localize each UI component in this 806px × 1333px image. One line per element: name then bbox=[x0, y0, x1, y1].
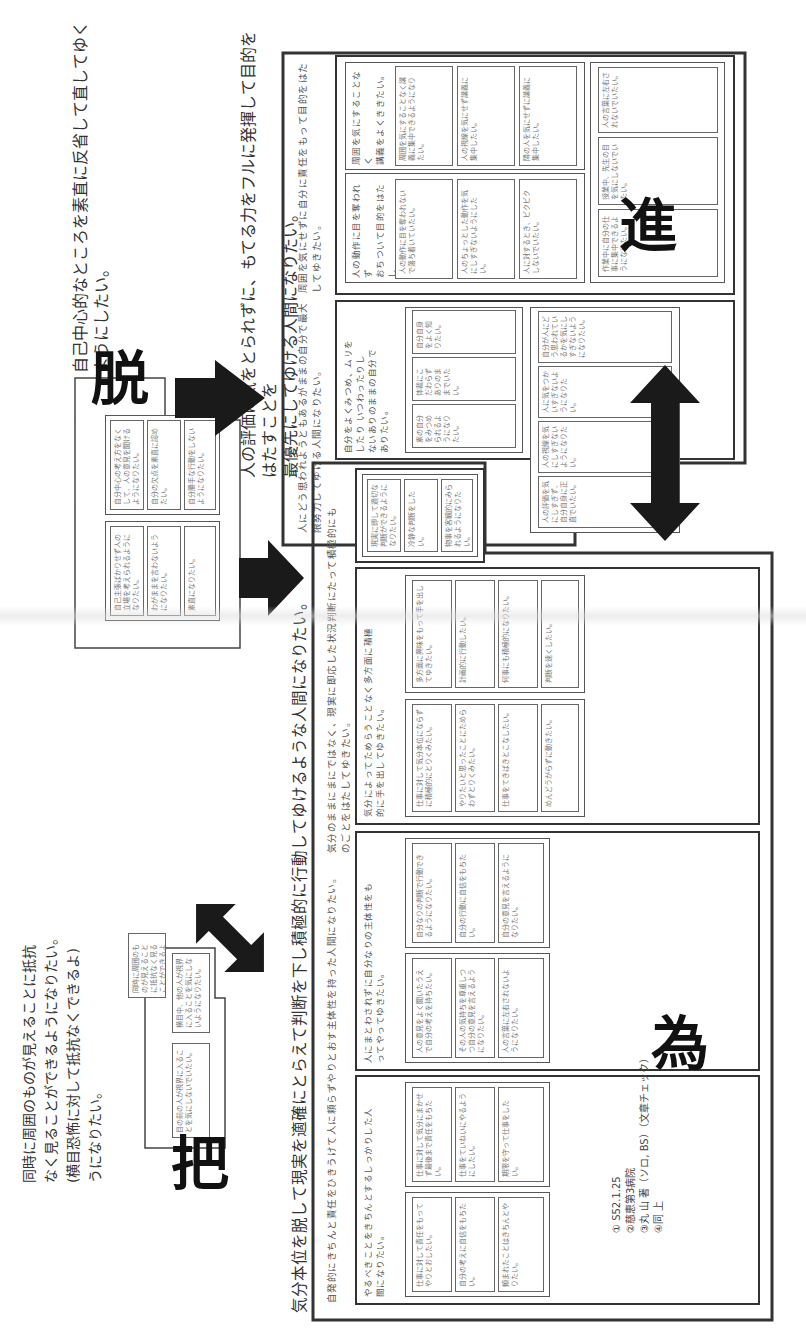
i-card: 自分の考えに自信をもちたい。 bbox=[455, 1197, 495, 1292]
i-card: 自分なりの判断で行動できるようになりたい。 bbox=[412, 843, 452, 943]
i-card: 仕事をてきぱきとこなしたい。 bbox=[498, 704, 538, 812]
datsu-card: 自己主張ばかりせず人の立場を考えられるようになりたい。 bbox=[110, 526, 144, 616]
i-card: やりたいと思ったことにためらわずとりくみたい。 bbox=[455, 704, 495, 812]
shin-sub-right: 周囲を気にせずに自分に責任をもって目的をはた してゆきたい。 bbox=[296, 43, 324, 293]
shin-glyph: 進 bbox=[619, 196, 677, 256]
ha-goal-heading: 同時に周囲のものが見えることに抵抗 なく見ることができるようになりたい。 (横目… bbox=[18, 923, 106, 1183]
document-page: 人の評価に気をとられずに、もてる力をフルに発揮して目的をはたすことを 最優先にし… bbox=[0, 0, 806, 1333]
shin-group-3-title: 自分をよくみつめ、ムリを したり いつわったりし ないありのままの自分で ありた… bbox=[342, 305, 390, 453]
shin-card: 素の自分をみつめられるようになりたい。 bbox=[412, 404, 516, 448]
shin-group-2-title: 周囲を気にすることなく 講義をよくききたい。 bbox=[350, 65, 386, 165]
i-group-1-title: やるべきことをきちんとするしっかりした人 間になりたい。 bbox=[362, 1082, 386, 1297]
arrow-datsu-to-shin bbox=[170, 358, 270, 438]
shin-card: 自分が人にどう思われているかを気にしすぎないようになりたい。 bbox=[538, 311, 672, 363]
i-card: 自分の行動に自信をもちたい。 bbox=[455, 843, 495, 943]
datsu-card: わがままを言わないようになりたい。 bbox=[147, 526, 181, 616]
ha-glyph: 把 bbox=[171, 1134, 229, 1194]
shin-card: 人のちょっとした動作を気にしすぎないようにしたい。 bbox=[457, 179, 515, 279]
i-card: 物事を客観的にみられるようになりたい。 bbox=[441, 479, 473, 552]
i-card: その人の気持ちを尊重しつつ自分の意見を言えるようになりたい。 bbox=[455, 958, 495, 1058]
i-card: 多方面に興味をもって手を出してゆきたい。 bbox=[412, 580, 452, 688]
shin-card: 人の動作に目を奪われないで落ち着いていたい。 bbox=[395, 179, 453, 279]
ha-card: 目の前の人が視界に入ることを気にしないでいたい。 bbox=[172, 1043, 210, 1138]
i-card: 頼まれたことはきちんとやりたい。 bbox=[498, 1197, 544, 1292]
datsu-card: 自分中心の考え方をなくして、人の意見を聞けるようになりたい。 bbox=[110, 420, 144, 510]
shin-card: 自分自身をよく知りたい。 bbox=[412, 310, 516, 354]
i-group-2-title: 人にまとわされずに自分なりの主体性をも ってやってゆきたい。 bbox=[362, 838, 386, 1063]
shin-card: 周囲を気にすることなく講義に集中できるようになりたい。 bbox=[395, 66, 453, 166]
double-arrow-ha-i bbox=[180, 888, 280, 988]
i-card: 人の意見をよく聞いたうえで自分の考えを持ちたい。 bbox=[412, 958, 452, 1058]
shin-card: 隣の人を気にせずに講義に集中したい。 bbox=[519, 66, 577, 166]
i-sub-left: 自発的にきちんと責任をひきうけて人に頼らずやりとおす主体性を持った人間になりたい… bbox=[325, 863, 339, 1303]
i-sub-right: 気分のままにまにではなく、現実に即応した状況判断にたって積極的にも のごとをはた… bbox=[325, 473, 353, 853]
i-card: 現実に即して適切な判断ができるようになりたい。 bbox=[367, 479, 401, 552]
i-card: 仕事に対して気分本位にならずに積極的にとりくみたい。 bbox=[412, 704, 452, 812]
i-card: めんどうがらずに動きたい。 bbox=[541, 704, 579, 812]
ha-card: 同時に周囲のものが見えることに抵抗なく見ることができるようになりたい。 bbox=[128, 933, 166, 998]
shin-card: 人に対するとき、ビクビクしないでいたい。 bbox=[519, 179, 577, 279]
i-card: 仕事に対して気分にまかせず最後まで責任をもちたい。 bbox=[412, 1087, 452, 1182]
scan-artifact bbox=[0, 606, 806, 626]
datsu-card: 素直になりたい。 bbox=[184, 526, 216, 616]
i-card: 期限を守って仕事をしたい。 bbox=[498, 1087, 544, 1182]
i-card: 仕事に対して責任をもってやりとおしたい。 bbox=[412, 1197, 452, 1292]
footer-notes: ① S52.1.25 ②慈恵第3病院 ③丸 山 著（ソロ, BS）（文章チェック… bbox=[610, 1013, 666, 1233]
datsu-glyph: 脱 bbox=[91, 349, 149, 409]
i-card: 仕事をていねいにやるようにしたい。 bbox=[455, 1087, 495, 1182]
datsu-goal-heading: 自己中心的なところを素直に反省して直してゆく ようにしたい。 bbox=[70, 0, 112, 373]
i-card: 何事にも積極的になりたい。 bbox=[498, 580, 538, 688]
i-card: 冷静な判断をしたい。 bbox=[404, 479, 438, 552]
shin-card: 人の言葉に左右されないでいたい。 bbox=[598, 67, 718, 133]
i-card: 判断を速くしたい。 bbox=[541, 580, 579, 688]
i-card: 人の言葉に左右されないようになりたい。 bbox=[498, 958, 544, 1058]
i-card: 計画的に行動したい。 bbox=[455, 580, 495, 688]
shin-card: 体裁にこだわらずありのままでいたい。 bbox=[412, 357, 516, 401]
i-card: 自分の意見を言えるようになりたい。 bbox=[498, 843, 544, 943]
double-arrow-i-shin bbox=[625, 363, 705, 543]
shin-card: 人の視線を気にせず講義に集中したい。 bbox=[457, 66, 515, 166]
